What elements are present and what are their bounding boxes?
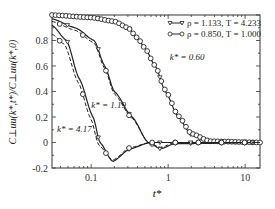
circle-marker [141,44,146,49]
legend: ρ = 1.133, T = 4.233ρ = 0.850, T = 1.000 [168,18,261,39]
curve-annotation: k* = 1.19 [91,100,126,110]
chart: 0.1110-0.200.20.40.60.8 ρ = 1.133, T = 4… [0,0,275,209]
circle-marker [219,140,224,145]
curve-annotation: k* = 4.17 [57,124,92,134]
circle-marker [127,146,132,151]
y-tick-label: -0.2 [32,163,48,174]
circle-marker [242,140,247,145]
circle-marker [104,151,109,156]
circle-marker [173,140,178,145]
legend-triangle-icon [168,22,172,26]
x-tick-label: 1 [166,172,171,183]
circle-marker [177,114,182,119]
curve-annotation: k* = 0.60 [170,52,205,62]
circle-marker [159,79,164,84]
circle-marker [131,31,136,36]
circle-marker [57,22,62,27]
x-tick-label: 0.1 [85,172,98,183]
y-tick-label: 0.2 [36,112,49,123]
circle-marker [173,109,178,114]
y-tick-label: 0.6 [36,61,49,72]
y-axis-label: C⊥uu(k*,t*)/C⊥uu(k*,0) [7,39,19,145]
y-tick-label: 0.8 [36,35,49,46]
y-tick-label: 0 [43,137,48,148]
legend-circle-icon [168,32,172,36]
circle-marker [169,101,174,106]
x-tick-label: 10 [240,172,250,183]
circle-marker [180,118,185,123]
y-tick-label: 0.4 [36,86,49,97]
circle-marker [138,39,143,44]
circle-marker [162,87,167,92]
circle-marker [166,92,171,97]
circle-marker [152,63,157,68]
circle-marker [104,68,109,73]
circle-marker [150,140,155,145]
legend-label: ρ = 1.133, T = 4.233 [187,18,261,28]
circle-marker [127,113,132,118]
circle-marker [57,38,62,43]
circle-marker [148,56,153,61]
triangle-marker [65,40,69,44]
circle-marker [196,140,201,145]
circle-marker [145,49,150,54]
legend-triangle-icon [180,22,184,26]
x-axis-label: t* [153,187,162,199]
circle-marker [155,68,160,73]
circle-marker [127,27,132,32]
circle-marker [184,124,189,129]
circle-marker [80,33,85,38]
circle-marker [80,92,85,97]
legend-label: ρ = 0.850, T = 1.000 [187,29,261,39]
legend-circle-icon [180,32,184,36]
